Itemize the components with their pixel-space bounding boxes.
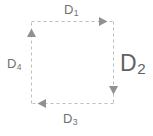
label-d1-base: D (64, 2, 73, 17)
diagram-canvas: D1 D2 D3 D4 (0, 0, 153, 136)
arrow-left-up-icon (27, 29, 36, 38)
dashed-square-outline (32, 22, 114, 104)
label-d1-subscript: 1 (74, 8, 79, 18)
label-d2-base: D (120, 50, 137, 76)
label-d4-base: D (7, 56, 16, 71)
label-d3-base: D (63, 111, 72, 126)
label-d1: D1 (64, 3, 78, 16)
arrow-right-down-icon (109, 86, 118, 95)
label-d3: D3 (63, 112, 77, 125)
arrow-bottom-left-icon (38, 99, 47, 108)
label-d4: D4 (7, 57, 21, 70)
label-d2: D2 (120, 52, 145, 75)
label-d4-subscript: 4 (17, 62, 22, 72)
label-d3-subscript: 3 (73, 117, 78, 127)
arrow-top-right-icon (99, 17, 108, 26)
label-d2-subscript: 2 (137, 60, 145, 77)
